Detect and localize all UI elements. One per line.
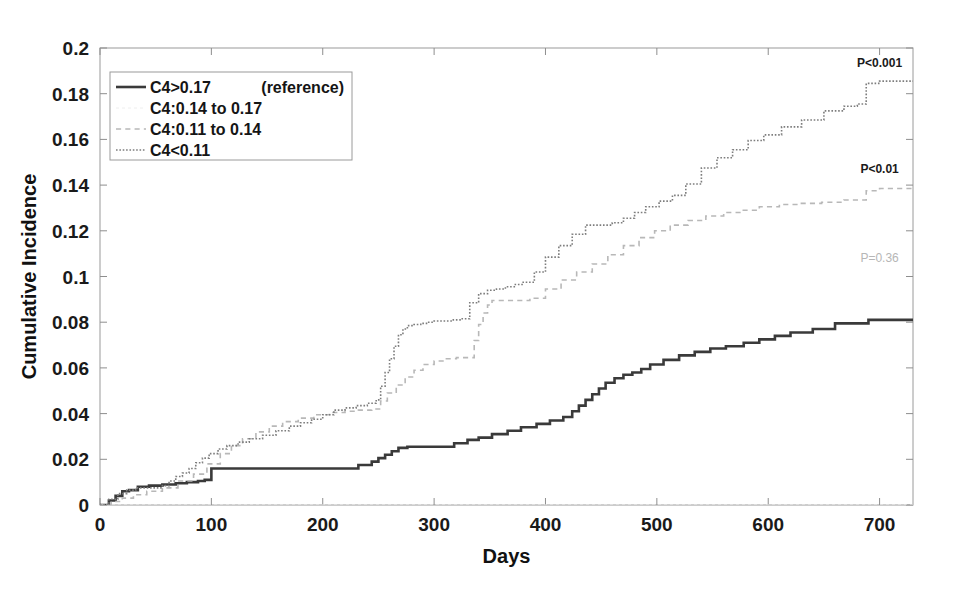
- legend-label-3: C4<0.11: [150, 142, 210, 159]
- cumulative-incidence-chart: 010020030040050060070000.020.040.060.080…: [0, 0, 955, 593]
- legend-label-0: C4>0.17: [150, 79, 211, 96]
- y-tick-label: 0.06: [52, 358, 89, 379]
- x-tick-label: 100: [196, 514, 228, 535]
- x-tick-label: 600: [752, 514, 784, 535]
- p-value-c4-011-to-014: P<0.01: [860, 162, 899, 176]
- x-tick-label: 500: [641, 514, 673, 535]
- y-tick-label: 0: [78, 495, 89, 516]
- y-tick-label: 0.2: [63, 38, 89, 59]
- y-axis-title: Cumulative Incidence: [18, 174, 40, 380]
- x-tick-label: 400: [530, 514, 562, 535]
- legend-label-2: C4:0.11 to 0.14: [150, 121, 261, 138]
- x-axis-title: Days: [483, 545, 531, 567]
- legend-note-0: (reference): [261, 79, 344, 96]
- y-tick-label: 0.18: [52, 84, 89, 105]
- y-tick-label: 0.08: [52, 312, 89, 333]
- y-tick-label: 0.12: [52, 221, 89, 242]
- y-tick-label: 0.02: [52, 449, 89, 470]
- p-value-c4-lt-011: P<0.001: [857, 56, 902, 70]
- y-tick-label: 0.16: [52, 129, 89, 150]
- legend-label-1: C4:0.14 to 0.17: [150, 100, 262, 117]
- y-tick-label: 0.14: [52, 175, 89, 196]
- figure-container: 010020030040050060070000.020.040.060.080…: [0, 0, 955, 593]
- y-tick-label: 0.04: [52, 404, 89, 425]
- x-tick-label: 700: [864, 514, 896, 535]
- legend: C4>0.17(reference)C4:0.14 to 0.17C4:0.11…: [110, 72, 352, 160]
- y-tick-label: 0.1: [63, 267, 90, 288]
- x-tick-label: 200: [307, 514, 339, 535]
- p-value-c4-014-to-017: P=0.36: [860, 251, 899, 265]
- x-tick-label: 0: [95, 514, 106, 535]
- x-tick-label: 300: [418, 514, 450, 535]
